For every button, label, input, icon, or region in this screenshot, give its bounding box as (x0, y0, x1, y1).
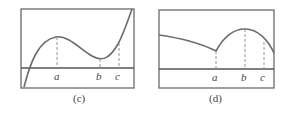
panel-c-label-c: c (115, 70, 120, 82)
panel-d-curve (159, 29, 274, 53)
panel-c-caption: (c) (73, 92, 86, 105)
panel-d: a b c (d) (159, 10, 274, 105)
diagram-canvas: a b c (c) a b c (d) (0, 0, 292, 114)
panel-c-label-a: a (54, 70, 60, 82)
panel-d-label-a: a (212, 71, 218, 83)
panel-d-caption: (d) (209, 92, 222, 105)
panel-d-label-c: c (260, 71, 265, 83)
panel-c: a b c (c) (21, 9, 134, 105)
panel-d-label-b: b (241, 71, 247, 83)
panel-c-label-b: b (96, 70, 102, 82)
